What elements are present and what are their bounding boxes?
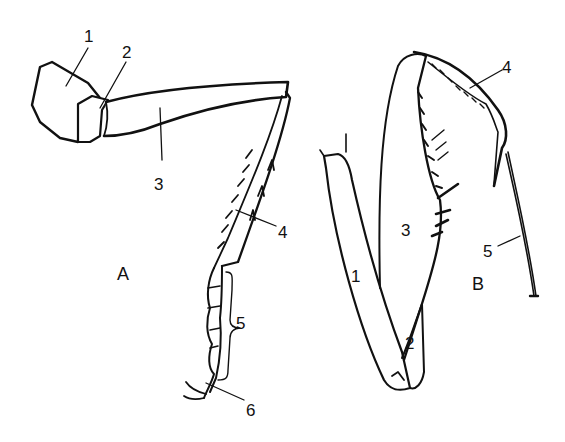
panel-label-a: A — [117, 265, 129, 283]
label-a-4-tibia: 4 — [278, 224, 287, 241]
label-b-4-tibia: 4 — [502, 59, 511, 76]
diagram-drawing — [0, 0, 565, 442]
leg-b-drawing — [320, 52, 538, 390]
leg-a-drawing — [32, 48, 290, 400]
label-b-5-tarsus: 5 — [483, 243, 492, 260]
label-b-3-femur: 3 — [401, 222, 410, 239]
label-a-2-trochanter: 2 — [122, 44, 131, 61]
label-b-1-coxa: 1 — [351, 268, 360, 285]
label-a-3-femur: 3 — [154, 176, 163, 193]
label-a-6-claw: 6 — [246, 402, 255, 419]
label-a-1-coxa: 1 — [84, 28, 93, 45]
insect-leg-diagram: 1 2 3 4 5 6 A 1 2 3 4 5 B — [0, 0, 565, 442]
label-a-5-tarsus: 5 — [236, 315, 245, 332]
label-b-2-trochanter: 2 — [405, 335, 414, 352]
panel-label-b: B — [472, 275, 484, 293]
